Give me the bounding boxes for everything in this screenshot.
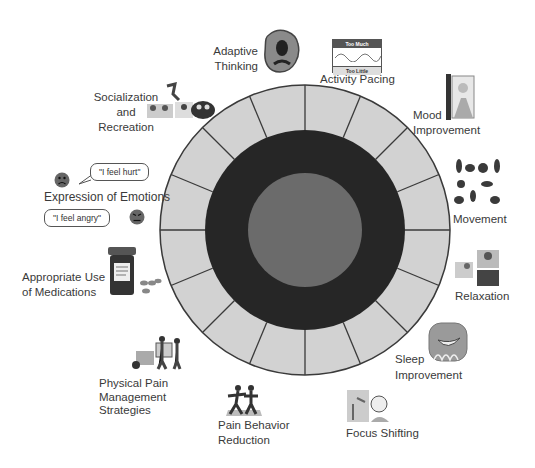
relaxation-scenes-icon — [455, 250, 501, 286]
label-relaxation: Relaxation — [455, 289, 509, 304]
label-pain-behavior-reduction: Pain Behavior Reduction — [218, 418, 290, 448]
sad-face-icon — [54, 172, 70, 188]
pain-behavior-figures-icon — [224, 384, 264, 418]
speech-bubble-angry: "I feel angry" — [44, 209, 110, 227]
label-activity-pacing: Activity Pacing — [320, 72, 395, 87]
angry-face-icon — [129, 209, 145, 225]
label-movement: Movement — [453, 212, 507, 227]
focus-shifting-person-icon — [347, 390, 389, 422]
label-adaptive-thinking: Adaptive Thinking — [204, 44, 258, 74]
label-sleep-improvement: Sleep Improvement — [395, 352, 462, 383]
label-expression-of-emotions: Expression of Emotions — [44, 190, 170, 205]
thinking-head-icon — [262, 28, 302, 74]
label-focus-shifting: Focus Shifting — [346, 426, 419, 441]
activity-pacing-card-icon: Too Much Too Little — [332, 39, 382, 73]
label-mood-improvement: Mood Improvement — [413, 108, 480, 138]
wave-icon — [333, 48, 381, 62]
recreation-photos-icon — [145, 82, 215, 120]
inner-disc — [248, 173, 362, 287]
label-appropriate-use-medications: Appropriate Use of Medications — [22, 270, 106, 300]
medication-bottle-icon — [106, 247, 162, 297]
movement-figures-icon — [453, 158, 503, 208]
label-physical-pain-management: Physical Pain Management Strategies — [99, 377, 168, 418]
speech-bubble-hurt: "I feel hurt" — [90, 163, 149, 181]
people-carrying-box-icon — [130, 335, 186, 371]
